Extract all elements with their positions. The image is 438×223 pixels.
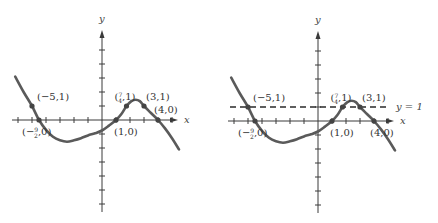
marked-point xyxy=(371,118,376,123)
y-axis-arrow-icon xyxy=(316,31,321,39)
graph-panel-2: xyy = 1(−5,1)(−92,0)(74,1)(3,1)(1,0)(4,0… xyxy=(228,14,423,213)
figure: xy(−5,1)(−92,0)(74,1)(3,1)(1,0)(4,0)xyy … xyxy=(0,0,438,223)
point-label: (4,0) xyxy=(370,127,394,138)
point-label: (−92,0) xyxy=(238,127,267,140)
marked-point xyxy=(36,117,41,122)
point-label: (3,1) xyxy=(362,92,386,103)
point-label: (−92,0) xyxy=(22,126,51,139)
marked-point xyxy=(141,103,146,108)
horizontal-line-label: y = 1 xyxy=(395,101,423,112)
marked-point xyxy=(245,104,250,109)
x-axis-arrow-icon xyxy=(386,119,394,124)
marked-point xyxy=(124,103,129,108)
point-label: (74,1) xyxy=(115,91,136,104)
y-axis-arrow-icon xyxy=(100,30,105,38)
marked-point xyxy=(329,118,334,123)
point-label: (74,1) xyxy=(331,92,352,105)
y-axis-label: y xyxy=(314,14,321,25)
marked-point xyxy=(155,117,160,122)
y-axis-label: y xyxy=(98,13,105,24)
point-label: (3,1) xyxy=(146,91,170,102)
marked-point xyxy=(252,118,257,123)
marked-point xyxy=(113,117,118,122)
marked-point xyxy=(29,103,34,108)
point-label: (1,0) xyxy=(114,126,138,137)
point-label: (4,0) xyxy=(154,104,178,115)
marked-point xyxy=(357,104,362,109)
graph-panel-1: xy(−5,1)(−92,0)(74,1)(3,1)(1,0)(4,0) xyxy=(12,13,190,212)
x-axis-label: x xyxy=(184,114,190,125)
x-axis-label: x xyxy=(400,115,406,126)
point-label: (1,0) xyxy=(330,127,354,138)
x-axis-arrow-icon xyxy=(170,118,178,123)
point-label: (−5,1) xyxy=(253,92,285,103)
point-label: (−5,1) xyxy=(37,91,69,102)
function-curve xyxy=(231,78,395,151)
marked-point xyxy=(340,104,345,109)
